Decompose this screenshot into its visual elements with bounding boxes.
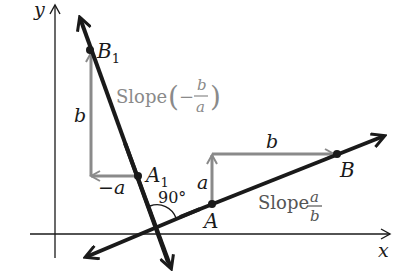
svg-text:−: −	[179, 86, 194, 107]
svg-text:): )	[210, 80, 221, 113]
label-b1: B1	[96, 39, 120, 66]
label-a1: A1	[144, 163, 169, 190]
label-b: B	[339, 158, 355, 182]
point-a1	[134, 172, 142, 180]
x-axis-label: x	[378, 239, 389, 261]
label-a: A	[202, 209, 218, 233]
svg-text:(: (	[168, 80, 179, 113]
slope-label-ab: Slope a b	[258, 188, 322, 225]
label-run-neg-a: −a	[98, 176, 125, 198]
svg-text:Slope: Slope	[116, 86, 167, 107]
label-rise-b-steep: b	[74, 104, 86, 126]
label-run-b: b	[266, 130, 278, 152]
perpendicular-lines-diagram: y x B1 A1 A B b −a a b 90° Slope ( − b a…	[0, 0, 419, 274]
svg-text:Slope: Slope	[258, 192, 309, 213]
svg-text:b: b	[310, 207, 320, 225]
slope-label-a1b1: Slope ( − b a )	[116, 76, 221, 116]
svg-text:b: b	[197, 76, 207, 94]
label-rise-a: a	[197, 171, 208, 193]
point-b1	[86, 46, 94, 54]
point-b	[333, 150, 341, 158]
point-a	[208, 200, 216, 208]
angle-label: 90°	[158, 188, 186, 207]
y-axis-label: y	[33, 0, 45, 20]
svg-text:a: a	[196, 98, 205, 116]
svg-text:a: a	[310, 188, 319, 206]
